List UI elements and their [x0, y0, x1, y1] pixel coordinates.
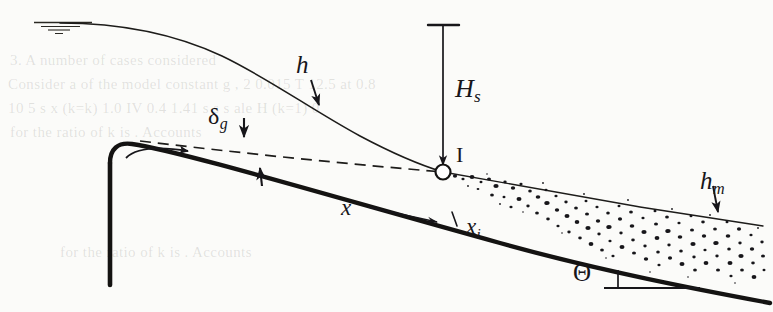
- xi-symbol: x: [466, 214, 476, 239]
- delta-symbol: δ: [208, 103, 219, 129]
- boundary-layer-thickness-arrow: [260, 168, 262, 186]
- flow-depth-arrow: [311, 80, 319, 105]
- head-above-inception-label: Hs: [455, 76, 481, 106]
- hm-symbol: h: [700, 167, 713, 194]
- mixture-depth-label: hm: [700, 168, 725, 198]
- hs-subscript: s: [474, 87, 481, 106]
- delta-subscript: g: [220, 115, 228, 132]
- figure-root: 3. A number of cases considered Consider…: [0, 0, 773, 312]
- free-surface-curve: [60, 23, 443, 172]
- inception-point-marker: [436, 165, 451, 180]
- x-dimension: [368, 207, 457, 226]
- inception-distance-label: xi: [466, 215, 481, 241]
- hm-subscript: m: [713, 179, 725, 198]
- inception-point-label: I: [456, 144, 463, 166]
- distance-label: x: [341, 196, 351, 219]
- boundary-layer-label: δg: [208, 104, 228, 132]
- xi-subscript: i: [477, 225, 481, 242]
- hs-symbol: H: [455, 74, 474, 103]
- spillway-diagram-svg: [0, 0, 773, 312]
- chute-angle-label: Θ: [573, 260, 591, 285]
- flow-depth-label: h: [296, 52, 309, 77]
